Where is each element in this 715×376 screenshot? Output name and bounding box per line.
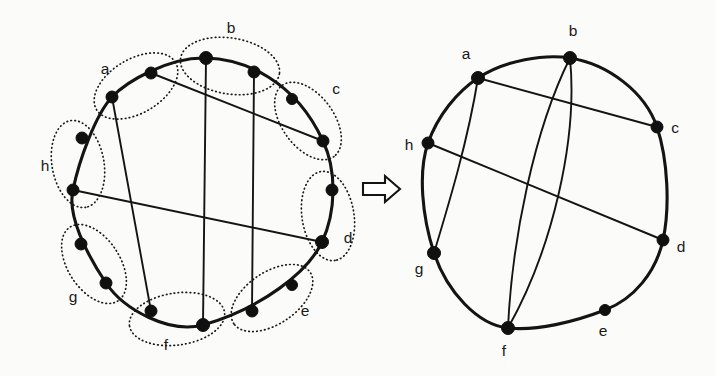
group-ellipse-c (261, 70, 355, 172)
right-label-a: a (462, 45, 471, 62)
left-chord-h1-d2 (73, 190, 322, 242)
right-vertex-g[interactable] (428, 247, 441, 260)
left-vertex-b1[interactable] (200, 52, 213, 65)
left-vertex-h2[interactable] (76, 132, 88, 144)
left-vertex-d2[interactable] (316, 236, 329, 249)
group-ellipse-e (219, 251, 324, 346)
left-chord-b1-f1 (203, 58, 206, 325)
contracted-circle-graph: a b c d e f g h (405, 22, 686, 359)
right-label-b: b (569, 22, 578, 39)
right-label-e: e (599, 322, 608, 339)
left-label-g: g (69, 288, 78, 305)
left-vertex-f2[interactable] (145, 305, 157, 317)
left-vertex-g1[interactable] (100, 277, 112, 289)
right-vertex-e[interactable] (600, 305, 611, 316)
group-ellipse-b (176, 31, 284, 102)
left-vertex-f1[interactable] (197, 319, 210, 332)
right-label-f: f (502, 342, 507, 359)
left-vertex-e2[interactable] (246, 305, 258, 317)
group-ellipse-h (45, 116, 111, 212)
left-chord-b2-e2 (252, 72, 254, 311)
right-vertex-d[interactable] (657, 234, 669, 246)
group-ellipse-d (295, 167, 360, 264)
left-vertex-a2[interactable] (145, 67, 157, 79)
left-vertex-c2[interactable] (317, 135, 329, 147)
left-label-f: f (164, 336, 169, 353)
right-edge-layer (428, 58, 663, 328)
right-vertex-f[interactable] (502, 322, 515, 335)
right-label-d: d (677, 238, 686, 255)
left-vertex-c1[interactable] (287, 94, 298, 105)
right-edge-b-f-right (508, 58, 571, 328)
left-label-b: b (227, 19, 236, 36)
right-vertex-b[interactable] (564, 52, 577, 65)
left-vertex-e1[interactable] (287, 280, 298, 291)
left-label-h: h (41, 157, 50, 174)
right-label-h: h (405, 136, 414, 153)
left-label-e: e (301, 302, 310, 319)
left-vertex-b2[interactable] (248, 66, 260, 78)
right-vertex-c[interactable] (651, 121, 663, 133)
right-label-g: g (415, 260, 424, 277)
right-edge-a-g (434, 78, 478, 253)
left-vertex-h1[interactable] (67, 184, 79, 196)
right-vertex-h[interactable] (422, 137, 434, 149)
left-label-c: c (332, 80, 340, 97)
right-edge-h-d (428, 143, 663, 240)
right-label-c: c (671, 119, 679, 136)
right-edge-b-f-left (508, 58, 570, 328)
right-circle-outline (422, 57, 667, 329)
left-label-layer: a b c d e f g h (41, 19, 353, 353)
left-chord-a1-f2 (112, 97, 151, 311)
right-vertex-a[interactable] (472, 72, 485, 85)
group-ellipse-f (126, 287, 228, 352)
left-label-d: d (344, 229, 353, 246)
figure-root: a b c d e f g h (0, 0, 715, 376)
expanded-circle-graph: a b c d e f g h (41, 19, 361, 353)
double-arrow-right-icon (363, 176, 400, 202)
left-vertex-g2[interactable] (75, 238, 87, 250)
left-label-a: a (101, 60, 110, 77)
left-vertex-d1[interactable] (326, 184, 338, 196)
left-chord-a2-c2 (151, 73, 323, 141)
left-vertex-a1[interactable] (106, 91, 118, 103)
graph-contraction-figure: a b c d e f g h (0, 0, 715, 376)
